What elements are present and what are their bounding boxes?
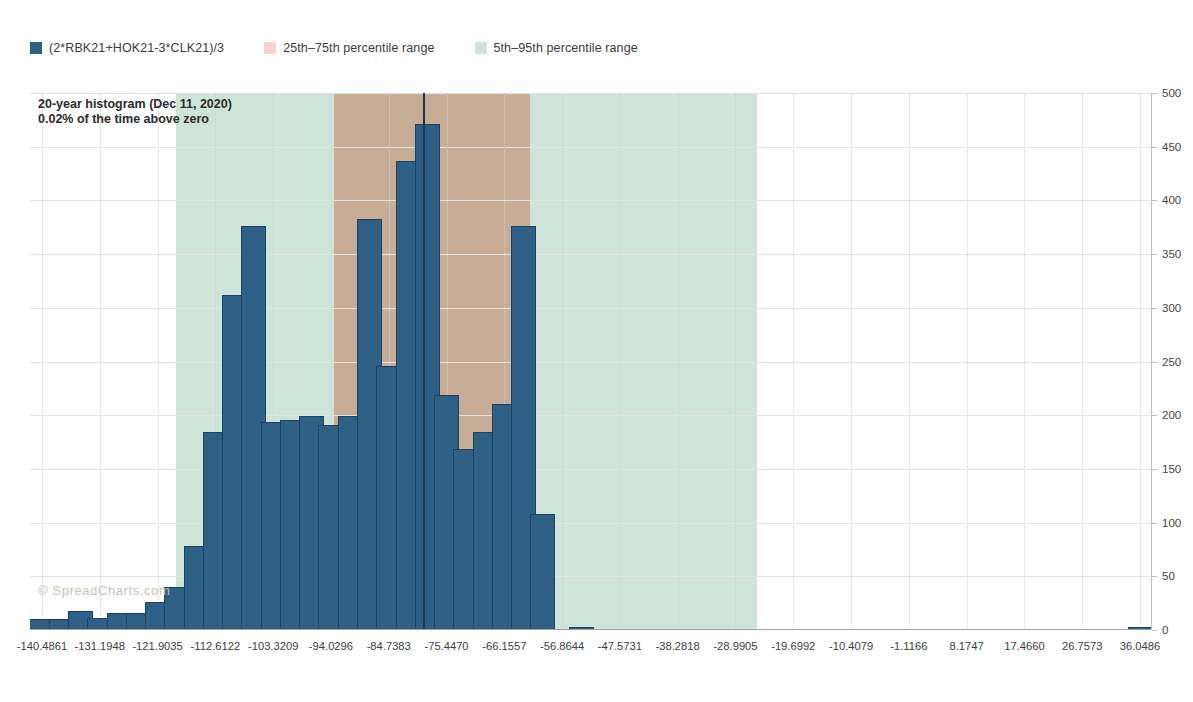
gridline-vertical [620,93,621,630]
gridline-horizontal [30,415,1152,416]
x-axis-tick-label: -94.0296 [309,640,353,652]
y-axis-tick-mark [1152,576,1157,577]
y-axis-tick-label: 500 [1162,87,1181,99]
x-axis-baseline [30,629,1152,630]
gridline-vertical [735,93,736,630]
y-axis-tick-mark [1152,147,1157,148]
x-axis-tick-label: -28.9905 [713,640,757,652]
gridline-horizontal [30,362,1152,363]
gridline-horizontal [30,200,1152,201]
square-swatch [475,42,487,54]
x-axis-tick-label: -121.9035 [132,640,182,652]
legend-item[interactable]: 25th–75th percentile range [264,41,434,55]
gridline-vertical [1140,93,1141,630]
legend-item[interactable]: (2*RBK21+HOK21-3*CLK21)/3 [30,41,224,55]
y-axis-tick-mark [1152,254,1157,255]
gridline-vertical [1024,93,1025,630]
x-axis-tick-label: 8.1747 [950,640,984,652]
x-axis-tick-label: -84.7383 [367,640,411,652]
gridline-vertical [793,93,794,630]
gridline-vertical [42,93,43,630]
gridline-vertical [1082,93,1083,630]
x-axis-tick-label: -75.4470 [424,640,468,652]
chart-legend: (2*RBK21+HOK21-3*CLK21)/325th–75th perce… [30,38,638,58]
gridline-vertical [851,93,852,630]
legend-item[interactable]: 5th–95th percentile range [475,41,638,55]
y-axis-tick-label: 450 [1162,141,1181,153]
x-axis-tick-label: -112.6122 [191,640,241,652]
annotation-line-1: 20-year histogram (Dec 11, 2020) [38,97,232,111]
y-axis-tick-label: 250 [1162,356,1181,368]
gridline-vertical [967,93,968,630]
y-axis-tick-label: 300 [1162,302,1181,314]
x-axis-tick-label: -19.6992 [771,640,815,652]
y-axis-tick-mark [1152,523,1157,524]
histogram-bar[interactable] [530,514,555,630]
current-value-marker-line [423,93,425,630]
y-axis-tick-mark [1152,630,1157,631]
x-axis-tick-label: -103.3209 [248,640,298,652]
x-axis: -140.4861-131.1948-121.9035-112.6122-103… [0,640,1193,660]
chart-annotation: 20-year histogram (Dec 11, 2020) 0.02% o… [38,97,232,127]
y-axis-tick-label: 150 [1162,463,1181,475]
legend-item-label: 25th–75th percentile range [283,41,434,55]
x-axis-tick-label: -38.2818 [656,640,700,652]
x-axis-tick-label: 17.4660 [1004,640,1044,652]
plot-area: 20-year histogram (Dec 11, 2020) 0.02% o… [30,93,1152,630]
gridline-horizontal [30,308,1152,309]
y-axis-tick-mark [1152,93,1157,94]
gridline-horizontal [30,523,1152,524]
y-axis-tick-label: 100 [1162,517,1181,529]
gridline-horizontal [30,147,1152,148]
y-axis-tick-label: 350 [1162,248,1181,260]
y-axis-tick-mark [1152,415,1157,416]
square-swatch [264,42,276,54]
gridline-vertical [909,93,910,630]
plot-inner [30,93,1152,630]
y-axis-tick-label: 0 [1162,624,1168,636]
x-axis-tick-label: -140.4861 [17,640,67,652]
x-axis-tick-label: 36.0486 [1120,640,1160,652]
gridline-horizontal [30,469,1152,470]
gridline-horizontal [30,93,1152,94]
legend-item-label: (2*RBK21+HOK21-3*CLK21)/3 [49,41,224,55]
square-swatch [30,42,42,54]
watermark: © SpreadCharts.com [38,583,170,598]
x-axis-tick-label: -131.1948 [75,640,125,652]
gridline-vertical [562,93,563,630]
x-axis-tick-label: -10.4079 [829,640,873,652]
gridline-vertical [158,93,159,630]
x-axis-tick-label: -1.1166 [890,640,927,652]
histogram-chart-page: (2*RBK21+HOK21-3*CLK21)/325th–75th perce… [0,0,1193,702]
x-axis-tick-label: -56.8644 [540,640,584,652]
x-axis-tick-label: -47.5731 [598,640,642,652]
y-axis-tick-mark [1152,362,1157,363]
x-axis-tick-label: 26.7573 [1062,640,1102,652]
gridline-horizontal [30,254,1152,255]
gridline-vertical [100,93,101,630]
y-axis-tick-mark [1152,308,1157,309]
legend-item-label: 5th–95th percentile range [494,41,638,55]
y-axis: 050100150200250300350400450500 [1152,93,1193,630]
y-axis-tick-label: 200 [1162,409,1181,421]
annotation-line-2: 0.02% of the time above zero [38,112,209,126]
y-axis-tick-mark [1152,200,1157,201]
y-axis-tick-mark [1152,469,1157,470]
y-axis-tick-label: 400 [1162,194,1181,206]
gridline-vertical [678,93,679,630]
y-axis-tick-label: 50 [1162,570,1175,582]
x-axis-tick-label: -66.1557 [482,640,526,652]
